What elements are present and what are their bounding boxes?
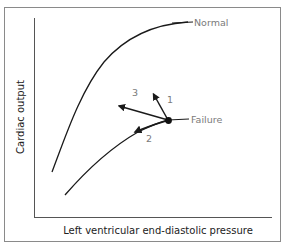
arrow-2	[135, 121, 166, 132]
failure-curve	[65, 120, 168, 195]
failure-label: Failure	[191, 114, 222, 125]
normal-leader	[172, 22, 193, 23]
figure-frame	[5, 8, 281, 242]
arrow-2-label: 2	[146, 133, 152, 144]
normal-label: Normal	[194, 17, 228, 28]
y-axis-label: Cardiac output	[15, 80, 26, 154]
failure-point	[165, 117, 172, 124]
arrow-1-label: 1	[167, 94, 173, 105]
x-axis-label: Left ventricular end-diastolic pressure	[63, 225, 253, 236]
arrow-3-label: 3	[132, 87, 138, 98]
frank-starling-diagram: Normal Failure 1 2 3 Left ventricular en…	[0, 0, 286, 249]
